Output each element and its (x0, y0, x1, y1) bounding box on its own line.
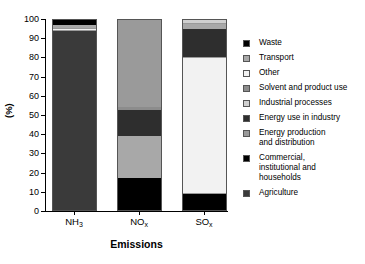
legend-item[interactable]: Commercial, institutional and households (243, 153, 365, 183)
y-axis-title: (%) (3, 103, 14, 118)
legend-label: Energy use in industry (259, 113, 340, 123)
bar-segment (182, 194, 227, 211)
bar-NH3 (52, 19, 97, 211)
legend-swatch-icon (243, 40, 250, 47)
category-label-subscript: 3 (79, 221, 83, 228)
bar-segment (182, 24, 227, 29)
y-axis-tick-label: 100 (24, 15, 39, 24)
x-axis-category-label: NOx (109, 216, 169, 227)
legend-label: Other (259, 68, 279, 78)
legend-label: Industrial processes (259, 98, 332, 108)
x-axis-tick-mark (139, 211, 140, 215)
legend-label: Agriculture (259, 188, 298, 198)
bar-segment (182, 57, 227, 193)
legend-swatch-icon (243, 190, 250, 197)
chart-legend: WasteTransportOtherSolvent and product u… (243, 38, 365, 203)
legend-swatch-icon (243, 115, 250, 122)
y-axis-tick-label: 60 (29, 91, 39, 100)
bar-SOx (182, 19, 227, 211)
y-axis-tick-label: 80 (29, 53, 39, 62)
bar-segment (117, 107, 162, 110)
y-axis-tick-label: 20 (29, 168, 39, 177)
y-axis-tick-label: 40 (29, 130, 39, 139)
legend-swatch-icon (243, 130, 250, 137)
y-axis-tick-label: 30 (29, 149, 39, 158)
bar-segment (52, 25, 97, 28)
category-label-subscript: x (209, 221, 213, 228)
bar-segment (117, 110, 162, 136)
x-axis-category-label: NH3 (44, 216, 104, 227)
legend-label: Energy production and distribution (259, 128, 325, 148)
bar-segment (117, 178, 162, 211)
bar-segment (52, 31, 97, 211)
category-label-subscript: x (144, 221, 148, 228)
bar-segment (182, 19, 227, 24)
plot-area (45, 19, 227, 211)
x-axis-tick-mark (204, 211, 205, 215)
y-axis-tick-label: 10 (29, 187, 39, 196)
x-axis-category-label: SOx (174, 216, 234, 227)
legend-item[interactable]: Waste (243, 38, 365, 48)
bar-NOx (117, 19, 162, 211)
x-axis-title: Emissions (45, 238, 228, 250)
legend-item[interactable]: Agriculture (243, 188, 365, 198)
legend-swatch-icon (243, 155, 250, 162)
legend-swatch-icon (243, 70, 250, 77)
bar-segment (52, 28, 97, 32)
legend-label: Commercial, institutional and households (259, 153, 316, 183)
category-label-base: NO (130, 216, 144, 227)
legend-label: Waste (259, 38, 282, 48)
category-label-base: NH (65, 216, 79, 227)
legend-swatch-icon (243, 100, 250, 107)
category-label-base: SO (195, 216, 209, 227)
bar-segment (117, 19, 162, 107)
bar-segment (182, 29, 227, 58)
y-axis-tick-mark (41, 211, 45, 212)
chart-figure: (%) 0102030405060708090100 NH3NOxSOx Emi… (0, 0, 365, 264)
legend-swatch-icon (243, 55, 250, 62)
legend-item[interactable]: Industrial processes (243, 98, 365, 108)
y-axis-tick-label: 90 (29, 34, 39, 43)
x-axis-tick-mark (74, 211, 75, 215)
legend-swatch-icon (243, 85, 250, 92)
y-axis-tick-label: 0 (34, 207, 39, 216)
legend-label: Transport (259, 53, 294, 63)
legend-item[interactable]: Other (243, 68, 365, 78)
legend-label: Solvent and product use (259, 83, 347, 93)
y-axis-tick-label: 70 (29, 72, 39, 81)
legend-item[interactable]: Solvent and product use (243, 83, 365, 93)
bar-segment (117, 136, 162, 178)
bar-segment (52, 19, 97, 25)
x-axis-line (45, 211, 228, 212)
legend-item[interactable]: Energy use in industry (243, 113, 365, 123)
legend-item[interactable]: Transport (243, 53, 365, 63)
y-axis-tick-label: 50 (29, 111, 39, 120)
legend-item[interactable]: Energy production and distribution (243, 128, 365, 148)
